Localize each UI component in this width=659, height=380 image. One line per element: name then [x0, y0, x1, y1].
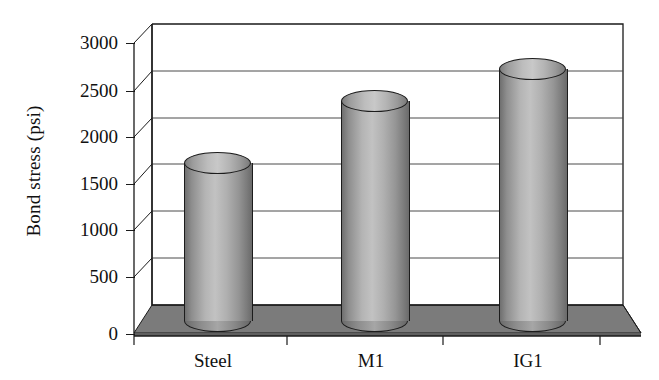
bar-steel-top-ellipse [184, 152, 251, 174]
y-axis-tick-1500 [126, 184, 135, 185]
y-axis-tick-500 [126, 277, 135, 278]
y-axis-tick-2500 [126, 91, 135, 92]
bar-ig1-top-ellipse [499, 58, 566, 80]
y-axis-label-500: 500 [56, 267, 118, 286]
depth-connector-2000 [134, 118, 152, 137]
bar-chart: Bond stress (psi) [0, 0, 659, 380]
y-axis-label-3000: 3000 [56, 33, 118, 52]
y-axis-label-2500: 2500 [56, 81, 118, 100]
bar-steel [184, 152, 251, 332]
y-axis-label-1000: 1000 [56, 220, 118, 239]
bar-m1-body [341, 101, 410, 321]
depth-connector-1000 [134, 211, 152, 230]
y-axis-tick-1000 [126, 230, 135, 231]
depth-connector-1500 [134, 164, 152, 184]
depth-connector-500 [134, 258, 152, 277]
bar-m1-top-ellipse [341, 90, 408, 112]
bar-ig1-body [499, 69, 568, 321]
x-axis-label-steel: Steel [153, 351, 273, 370]
bar-ig1 [499, 58, 566, 332]
x-axis-label-ig1: IG1 [468, 351, 588, 370]
y-axis-tick-3000 [126, 43, 135, 44]
y-axis-label-2000: 2000 [56, 127, 118, 146]
bar-m1 [341, 90, 408, 332]
y-axis-tick-2000 [126, 137, 135, 138]
x-axis-label-m1: M1 [311, 351, 431, 370]
y-axis-label-1500: 1500 [56, 174, 118, 193]
depth-connector-2500 [134, 71, 152, 91]
y-axis-tick-0 [126, 334, 135, 335]
y-axis-label-0: 0 [56, 324, 118, 343]
depth-connector-3000 [134, 24, 152, 43]
bar-steel-body [184, 163, 253, 321]
